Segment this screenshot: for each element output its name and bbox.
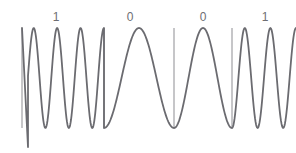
fsk-waveform-plot <box>0 0 296 153</box>
fsk-waveform-figure: 1001 <box>0 0 296 153</box>
bit-label-0: 1 <box>47 11 65 23</box>
bit-label-1: 0 <box>121 11 139 23</box>
bit-label-3: 1 <box>256 11 274 23</box>
carrier-path <box>22 28 296 147</box>
modulated-carrier-curve <box>22 28 296 147</box>
bit-label-2: 0 <box>194 11 212 23</box>
